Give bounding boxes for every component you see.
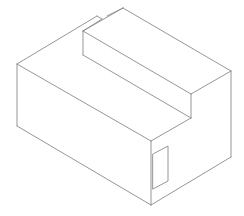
step-floor-edge xyxy=(83,55,191,118)
front-face-recess xyxy=(153,146,168,189)
bottom-left-edge xyxy=(17,126,151,205)
step-top-right-edge xyxy=(123,8,231,71)
top-left-front-edge xyxy=(17,64,151,141)
left-back-top-edge xyxy=(17,16,97,64)
block-drawing-svg xyxy=(0,0,244,216)
step-back-to-apex-edge xyxy=(83,8,123,31)
notch-edge xyxy=(97,16,102,19)
top-right-front-edge xyxy=(151,118,191,141)
step-top-left-edge xyxy=(83,31,191,94)
isometric-block-diagram xyxy=(0,0,244,216)
block-edges xyxy=(17,8,231,205)
step-top-front-edge xyxy=(191,71,231,94)
bottom-right-edge xyxy=(151,157,231,205)
